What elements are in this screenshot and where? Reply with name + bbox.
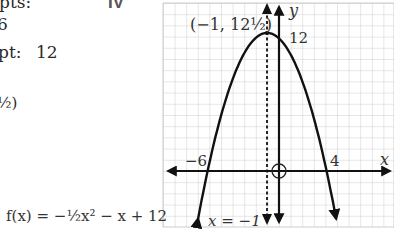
parabola-graph: (−1, 12½) y 12 x −6 4 x = −1 f(x) = −½x²… (0, 0, 394, 239)
x-intercept-neg6-label: −6 (185, 152, 207, 170)
vertex-label: (−1, 12½) (190, 15, 272, 34)
x-axis-label: x (380, 150, 389, 169)
y-intercept-tick-label: 12 (289, 29, 308, 47)
equation-label: f(x) = −½x² − x + 12 (6, 207, 167, 225)
axis-of-symmetry-label: x = −1 (208, 212, 261, 230)
y-axis-label: y (288, 1, 299, 20)
x-intercept-4-label: 4 (330, 152, 340, 170)
